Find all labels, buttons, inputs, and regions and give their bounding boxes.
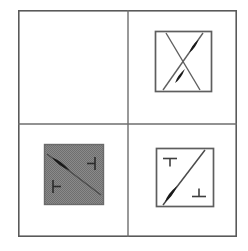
panel-bottom-right-inner-box [157, 149, 214, 207]
figure-canvas [0, 0, 248, 251]
panel-top-left [19, 11, 128, 124]
figure-container [0, 0, 248, 251]
panel-top-right [156, 32, 212, 92]
panel-bottom-left [45, 145, 104, 205]
panel-bottom-right [157, 149, 214, 207]
